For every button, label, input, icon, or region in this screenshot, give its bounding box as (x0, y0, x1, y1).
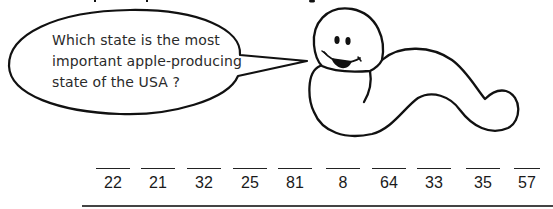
clue-number: 21 (141, 174, 175, 192)
blank-line (514, 168, 540, 169)
answer-blank[interactable]: 35 (466, 168, 500, 192)
cutoff-heading-remnants (94, 0, 315, 3)
blank-line (187, 168, 221, 169)
clue-number: 32 (187, 174, 221, 192)
answer-blank[interactable]: 8 (326, 168, 360, 192)
clue-number: 64 (372, 174, 406, 192)
clue-number: 33 (417, 174, 451, 192)
clue-number: 8 (326, 174, 360, 192)
answer-blank[interactable]: 81 (278, 168, 312, 192)
answer-blank[interactable]: 25 (233, 168, 267, 192)
answer-blank[interactable]: 64 (372, 168, 406, 192)
blank-line (96, 168, 130, 169)
answer-blank[interactable]: 21 (141, 168, 175, 192)
answer-blank[interactable]: 33 (417, 168, 451, 192)
blank-line (466, 168, 500, 169)
speech-bubble-text: Which state is the most important apple-… (52, 30, 242, 93)
blank-line (233, 168, 267, 169)
clue-number: 81 (278, 174, 312, 192)
smiling-worm-icon (309, 8, 518, 135)
question-line-1: Which state is the most (52, 30, 242, 51)
answer-blank[interactable]: 32 (187, 168, 221, 192)
answer-blank[interactable]: 22 (96, 168, 130, 192)
answer-blank[interactable]: 57 (514, 168, 540, 192)
question-line-2: important apple-producing (52, 51, 242, 72)
blank-line (278, 168, 312, 169)
blank-line (372, 168, 406, 169)
clue-number: 57 (514, 174, 540, 192)
blank-line (417, 168, 451, 169)
clue-number: 35 (466, 174, 500, 192)
clue-number: 25 (233, 174, 267, 192)
clue-number: 22 (96, 174, 130, 192)
blank-line (141, 168, 175, 169)
blank-line (326, 168, 360, 169)
divider-line (82, 205, 553, 207)
question-line-3: state of the USA ? (52, 72, 242, 93)
